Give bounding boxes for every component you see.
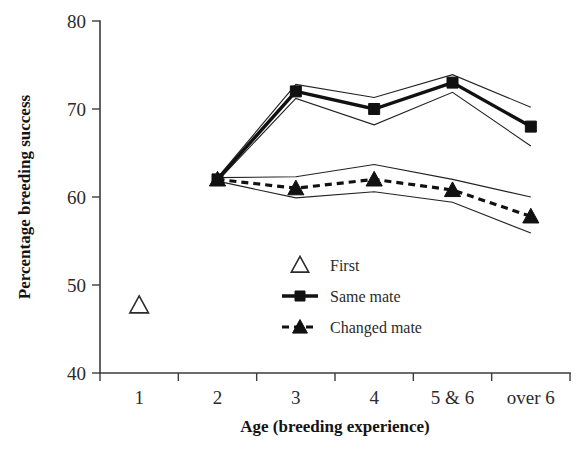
breeding-success-line-chart: 4050607080 Percentage breeding success 1… [0, 0, 580, 453]
x-tick-label: over 6 [507, 387, 555, 408]
y-axis-title: Percentage breeding success [15, 94, 34, 299]
chart-container: 4050607080 Percentage breeding success 1… [0, 0, 580, 453]
marker-square [290, 86, 301, 97]
x-axis-tick-labels: 12345 & 6over 6 [134, 387, 554, 408]
legend-marker-square [295, 291, 305, 301]
marker-square [369, 104, 380, 115]
x-tick-label: 5 & 6 [431, 387, 474, 408]
x-axis-group: 12345 & 6over 6 Age (breeding experience… [100, 373, 570, 436]
y-axis-group: 4050607080 Percentage breeding success [15, 11, 100, 384]
y-axis-tick-labels: 4050607080 [67, 11, 86, 384]
marker-square [525, 121, 536, 132]
band-lower-2 [218, 181, 531, 233]
marker-open-triangle [130, 296, 149, 313]
legend-label-2: Changed mate [330, 319, 422, 337]
y-tick-label: 50 [67, 275, 86, 296]
y-tick-label: 70 [67, 99, 86, 120]
y-tick-label: 80 [67, 11, 86, 32]
x-axis-ticks [100, 373, 570, 381]
plot-area [130, 75, 539, 313]
marker-triangle [366, 171, 382, 186]
y-tick-label: 60 [67, 187, 86, 208]
marker-square [447, 77, 458, 88]
y-axis-ticks [92, 21, 100, 373]
legend: FirstSame mateChanged mate [282, 256, 422, 337]
legend-label-0: First [330, 257, 360, 274]
x-tick-label: 4 [369, 387, 379, 408]
series-lines [218, 83, 531, 217]
x-tick-label: 1 [134, 387, 144, 408]
x-tick-label: 3 [291, 387, 301, 408]
x-tick-label: 2 [213, 387, 223, 408]
legend-marker-open-triangle [291, 256, 308, 272]
legend-label-1: Same mate [330, 288, 401, 305]
x-axis-title: Age (breeding experience) [240, 417, 429, 436]
y-tick-label: 40 [67, 363, 86, 384]
